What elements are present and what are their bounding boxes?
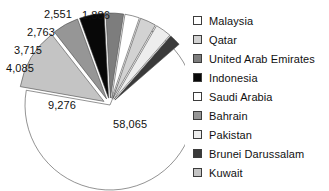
- legend-swatch-icon: [193, 149, 202, 158]
- legend-item-label: Malaysia: [209, 15, 253, 27]
- legend-item-label: Bahrain: [209, 110, 248, 122]
- legend-swatch-icon: [193, 16, 202, 25]
- slice-value-label: 1,886: [82, 9, 110, 21]
- legend-item-saudi-arabia[interactable]: Saudi Arabia: [193, 87, 329, 106]
- legend-swatch-icon: [193, 54, 202, 63]
- legend-item-indonesia[interactable]: Indonesia: [193, 68, 329, 87]
- slice-value-label: 3,715: [14, 44, 42, 56]
- slice-value-label: 58,065: [113, 118, 147, 130]
- pie-plot-area: 2,5511,8862,7633,7154,0859,27658,065: [0, 0, 185, 191]
- legend-swatch-icon: [193, 130, 202, 139]
- legend-item-label: Pakistan: [209, 129, 252, 141]
- legend-item-label: United Arab Emirates: [209, 53, 315, 65]
- legend-item-label: Saudi Arabia: [209, 91, 273, 103]
- legend-swatch-icon: [193, 35, 202, 44]
- legend-item-label: Qatar: [209, 34, 237, 46]
- legend-swatch-icon: [193, 168, 202, 177]
- legend-item-united-arab-emirates[interactable]: United Arab Emirates: [193, 49, 329, 68]
- slice-value-label: 9,276: [48, 99, 76, 111]
- legend-item-kuwait[interactable]: Kuwait: [193, 163, 329, 182]
- legend-item-label: Kuwait: [209, 167, 243, 179]
- chart-legend: MalaysiaQatarUnited Arab EmiratesIndones…: [193, 11, 329, 182]
- slice-value-label: 2,763: [27, 26, 55, 38]
- legend-item-bahrain[interactable]: Bahrain: [193, 106, 329, 125]
- legend-item-malaysia[interactable]: Malaysia: [193, 11, 329, 30]
- slice-value-label: 4,085: [6, 62, 34, 74]
- legend-item-brunei-darussalam[interactable]: Brunei Darussalam: [193, 144, 329, 163]
- legend-swatch-icon: [193, 92, 202, 101]
- slice-value-label: 2,551: [44, 8, 72, 20]
- legend-item-qatar[interactable]: Qatar: [193, 30, 329, 49]
- legend-item-label: Indonesia: [209, 72, 258, 84]
- legend-swatch-icon: [193, 73, 202, 82]
- pie-chart-figure: 2,5511,8862,7633,7154,0859,27658,065 Mal…: [0, 0, 329, 191]
- legend-item-pakistan[interactable]: Pakistan: [193, 125, 329, 144]
- legend-item-label: Brunei Darussalam: [209, 148, 304, 160]
- legend-swatch-icon: [193, 111, 202, 120]
